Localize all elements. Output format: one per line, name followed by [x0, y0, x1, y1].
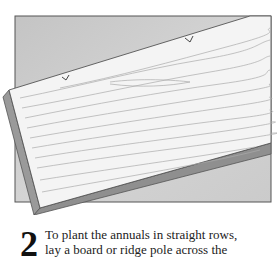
board-illustration [0, 0, 277, 215]
instruction-step: 2 To plant the annuals in straight rows,… [20, 226, 277, 255]
step-text: To plant the annuals in straight rows, l… [45, 227, 237, 257]
step-text-line-2: lay a board or ridge pole across the [45, 242, 237, 257]
step-number: 2 [20, 226, 38, 261]
step-text-line-1: To plant the annuals in straight rows, [45, 227, 237, 242]
